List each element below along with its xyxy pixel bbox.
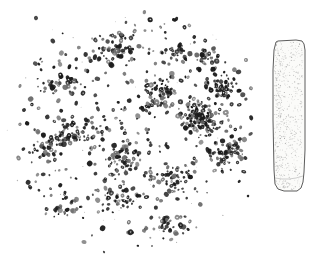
stipple-dot: [281, 114, 282, 115]
grain-scatter-panel: [0, 0, 262, 261]
stipple-dot: [298, 99, 299, 100]
stipple-dot: [298, 50, 299, 51]
paper-speck: [52, 29, 53, 30]
stipple-dot: [295, 150, 296, 151]
stipple-dot: [288, 183, 289, 184]
stipple-dot: [292, 189, 293, 190]
stipple-dot: [283, 120, 284, 121]
stipple-dot: [280, 99, 281, 100]
stipple-dot: [297, 57, 298, 58]
stipple-dot: [286, 184, 287, 185]
stipple-dot: [289, 139, 290, 140]
stipple-dot: [283, 136, 284, 137]
stipple-dot: [293, 148, 294, 149]
paper-speck: [183, 114, 184, 115]
stipple-shade-dot: [276, 85, 277, 86]
stipple-dot: [294, 60, 295, 61]
stipple-shade-dot: [279, 123, 280, 124]
stipple-dot: [292, 45, 293, 46]
stipple-dot: [287, 148, 288, 149]
stipple-dot: [283, 185, 284, 186]
stipple-shade-dot: [278, 71, 279, 72]
stipple-shade-dot: [280, 177, 281, 178]
stipple-shade-dot: [276, 45, 277, 46]
stipple-dot: [301, 60, 302, 61]
stipple-dot: [282, 68, 283, 69]
stipple-dot: [293, 117, 294, 118]
stipple-dot: [295, 186, 296, 187]
stipple-shade-dot: [280, 139, 281, 140]
stipple-dot: [289, 72, 290, 73]
stipple-dot: [284, 125, 285, 126]
stipple-dot: [301, 118, 302, 119]
stipple-shade-dot: [279, 150, 280, 151]
stipple-dot: [295, 45, 296, 46]
stipple-dot: [295, 119, 296, 120]
stipple-shade-dot: [278, 84, 279, 85]
stipple-shade-dot: [274, 151, 275, 152]
stipple-dot: [293, 149, 294, 150]
stipple-dot: [280, 71, 281, 72]
stipple-dot: [288, 81, 289, 82]
stipple-dot: [292, 67, 293, 68]
stone-tool-drawing: [262, 0, 319, 261]
stipple-dot: [282, 109, 283, 110]
stipple-dot: [299, 115, 300, 116]
stipple-dot: [290, 87, 291, 88]
stipple-dot: [280, 187, 281, 188]
stipple-dot: [293, 100, 294, 101]
stipple-dot: [300, 139, 301, 140]
stipple-dot: [276, 157, 277, 158]
stipple-dot: [282, 52, 283, 53]
stipple-dot: [284, 70, 285, 71]
stipple-dot: [277, 121, 278, 122]
stipple-dot: [302, 106, 303, 107]
stipple-dot: [277, 165, 278, 166]
stipple-dot: [278, 113, 279, 114]
stipple-dot: [292, 138, 293, 139]
stipple-dot: [285, 143, 286, 144]
stipple-dot: [293, 91, 294, 92]
stipple-shade-dot: [277, 70, 278, 71]
stipple-dot: [287, 187, 288, 188]
stipple-dot: [294, 171, 295, 172]
stipple-shade-dot: [280, 85, 281, 86]
stipple-dot: [297, 83, 298, 84]
stipple-dot: [286, 182, 287, 183]
stipple-shade-dot: [279, 60, 280, 61]
stipple-dot: [284, 92, 285, 93]
stipple-dot: [293, 60, 294, 61]
grain-dot: [111, 173, 113, 175]
stipple-shade-dot: [276, 57, 277, 58]
paper-speck: [84, 212, 85, 213]
stipple-dot: [300, 132, 301, 133]
stipple-dot: [280, 105, 281, 106]
stipple-shade-dot: [278, 125, 279, 126]
stipple-dot: [283, 119, 284, 120]
stipple-shade-dot: [277, 146, 278, 147]
stipple-dot: [302, 54, 303, 55]
stipple-dot: [290, 131, 291, 132]
stipple-dot: [280, 87, 281, 88]
stipple-dot: [296, 157, 297, 158]
stipple-dot: [281, 95, 282, 96]
paper-speck: [222, 215, 223, 216]
paper-speck: [191, 203, 192, 204]
stipple-shade-dot: [277, 124, 278, 125]
stipple-shade-dot: [277, 49, 278, 50]
stipple-shade-dot: [276, 143, 277, 144]
stipple-dot: [292, 130, 293, 131]
stipple-dot: [300, 83, 301, 84]
stipple-dot: [282, 66, 283, 67]
stipple-dot: [280, 140, 281, 141]
stipple-dot: [287, 75, 288, 76]
stipple-dot: [281, 124, 282, 125]
stipple-dot: [288, 50, 289, 51]
paper-speck: [60, 194, 61, 195]
stipple-dot: [298, 129, 299, 130]
stipple-dot: [299, 44, 300, 45]
stipple-dot: [301, 126, 302, 127]
stipple-dot: [281, 113, 282, 114]
stone-tool-panel: [262, 0, 319, 261]
stipple-dot: [298, 111, 299, 112]
